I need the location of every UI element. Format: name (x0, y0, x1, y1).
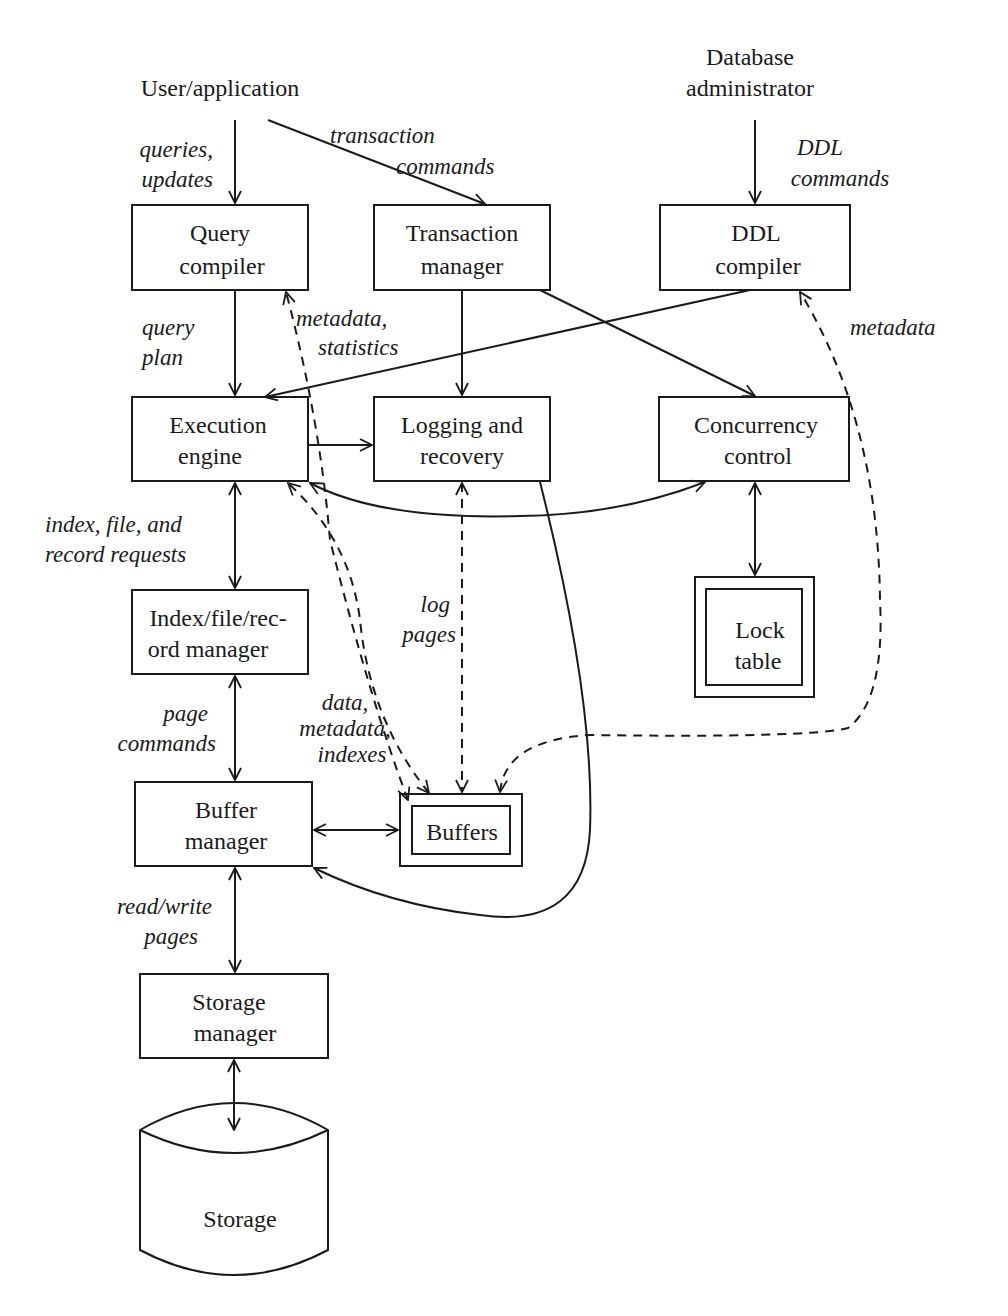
transaction-manager-box: Transaction manager (374, 205, 550, 290)
dbms-architecture-diagram: User/application Database administrator … (0, 0, 1008, 1316)
label-metadata-comma: metadata, (296, 306, 387, 331)
arrow-transaction-manager-to-concurrency (540, 290, 755, 396)
query-compiler-line2: compiler (179, 253, 264, 279)
concurrency-control-line1: Concurrency (694, 412, 818, 438)
execution-engine-box: Execution engine (132, 397, 308, 481)
label-queries: queries, (140, 137, 213, 162)
label-data: data, (322, 690, 369, 715)
index-file-record-manager-line1: Index/file/rec- (149, 605, 286, 631)
label-query: query (142, 315, 195, 340)
logging-recovery-line2: recovery (420, 443, 504, 469)
query-compiler-box: Query compiler (132, 205, 308, 290)
label-metadata: metadata (850, 315, 936, 340)
label-index-file-and: index, file, and (45, 512, 182, 537)
label-page: page (161, 701, 208, 726)
storage-label: Storage (203, 1206, 276, 1232)
ddl-compiler-box: DDL compiler (660, 205, 850, 290)
execution-engine-line1: Execution (169, 412, 266, 438)
buffer-manager-box: Buffer manager (135, 782, 312, 866)
buffer-manager-line1: Buffer (195, 797, 257, 823)
label-statistics: statistics (318, 335, 399, 360)
label-metadata-2: metadata, (299, 716, 390, 741)
label-log: log (421, 592, 450, 617)
label-pages: pages (400, 622, 456, 647)
label-record-requests: record requests (45, 542, 186, 567)
label-indexes: indexes (318, 742, 387, 767)
storage-manager-line1: Storage (192, 989, 265, 1015)
dashed-buffers-ddl-compiler (500, 292, 881, 792)
transaction-manager-line1: Transaction (406, 220, 518, 246)
lock-table-box: Lock table (695, 577, 814, 697)
logging-recovery-line1: Logging and (401, 412, 523, 438)
label-commands: commands (396, 154, 494, 179)
lock-table-line1: Lock (735, 617, 784, 643)
index-file-record-manager-box: Index/file/rec- ord manager (132, 590, 308, 674)
label-ddl: DDL (796, 135, 843, 160)
lock-table-line2: table (735, 648, 782, 674)
buffers-box: Buffers (400, 794, 522, 866)
index-file-record-manager-line2: ord manager (148, 636, 269, 662)
query-compiler-line1: Query (190, 220, 250, 246)
user-application-label: User/application (141, 75, 300, 101)
storage-manager-box: Storage manager (140, 974, 328, 1058)
dba-label-line2: administrator (686, 75, 814, 101)
label-plan: plan (140, 345, 183, 370)
buffers-label: Buffers (426, 819, 498, 845)
arrow-execution-engine-concurrency-control (310, 482, 705, 516)
label-ddl-commands: commands (791, 166, 889, 191)
buffer-manager-line2: manager (185, 828, 268, 854)
label-read-write: read/write (117, 894, 212, 919)
ddl-compiler-line1: DDL (731, 220, 780, 246)
label-updates: updates (141, 167, 213, 192)
transaction-manager-line2: manager (421, 253, 504, 279)
label-transaction: transaction (330, 123, 435, 148)
execution-engine-line2: engine (178, 443, 242, 469)
concurrency-control-line2: control (724, 443, 792, 469)
logging-recovery-box: Logging and recovery (374, 397, 550, 481)
ddl-compiler-line2: compiler (715, 253, 800, 279)
dba-label-line1: Database (706, 44, 794, 70)
label-rw-pages: pages (142, 924, 198, 949)
storage-manager-line2: manager (194, 1020, 277, 1046)
label-page-commands: commands (118, 731, 216, 756)
concurrency-control-box: Concurrency control (659, 397, 849, 481)
